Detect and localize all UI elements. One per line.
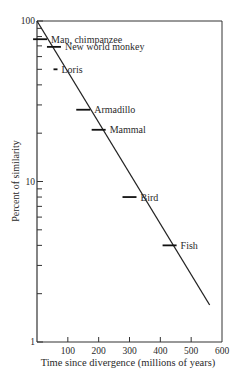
x-axis-label: Time since divergence (millions of years… (41, 357, 216, 369)
data-point: Armadillo (76, 104, 135, 115)
data-point-label: New world monkey (65, 41, 144, 52)
y-axis: 100101 (21, 16, 43, 347)
y-tick-label: 10 (26, 177, 36, 187)
x-tick-label: 100 (61, 346, 76, 356)
x-tick-label: 300 (122, 346, 137, 356)
x-axis: 100200300400500600 (61, 337, 230, 356)
y-axis-label: Percent of similarity (10, 140, 21, 222)
x-tick-label: 500 (184, 346, 199, 356)
data-point-label: Mammal (110, 124, 146, 135)
data-point-label: Loris (62, 64, 83, 75)
y-tick-label: 100 (21, 16, 36, 26)
data-point-label: Armadillo (94, 104, 135, 115)
data-points: Man, chimpanzeeNew world monkeyLorisArma… (33, 34, 198, 251)
y-tick-label: 1 (30, 337, 35, 347)
data-point: Fish (163, 240, 198, 251)
x-tick-label: 400 (153, 346, 168, 356)
data-point-label: Fish (181, 240, 198, 251)
x-tick-label: 200 (92, 346, 107, 356)
x-tick-label: 600 (215, 346, 230, 356)
data-point-label: Bird (141, 192, 159, 203)
data-point: Loris (54, 64, 83, 75)
data-point: Mammal (92, 124, 146, 135)
chart: 100101 100200300400500600 Man, chimpanze… (0, 0, 245, 371)
data-point: Bird (123, 192, 159, 203)
